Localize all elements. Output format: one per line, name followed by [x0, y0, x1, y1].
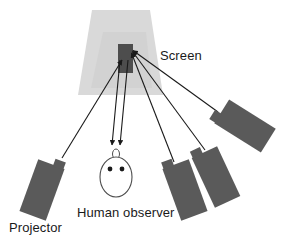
observer-eye-left — [108, 167, 113, 172]
screen-label: Screen — [160, 48, 202, 63]
projector-body — [214, 100, 275, 153]
projector-label: Projector — [9, 220, 62, 235]
projector-left — [19, 153, 66, 220]
projector-body — [19, 159, 64, 220]
observer-label: Human observer — [77, 205, 175, 220]
observer-head — [100, 157, 132, 197]
human-observer — [100, 149, 132, 197]
figure-canvas: Screen Projector Human observer — [0, 0, 285, 244]
projector-right-far — [209, 96, 276, 152]
projected-image-region — [118, 44, 133, 73]
ray-right-mid-to-screen — [133, 52, 206, 151]
observer-eye-right — [120, 167, 125, 172]
